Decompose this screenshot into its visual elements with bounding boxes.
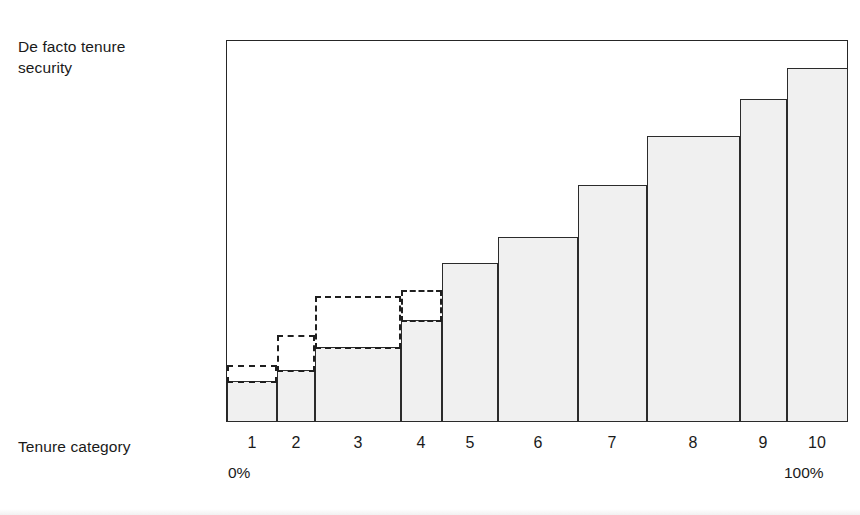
bar-dashed-extension-4 [401,290,442,322]
x-tick-label-2: 2 [292,432,301,454]
scale-start-label: 0% [228,462,250,483]
x-tick-label-10: 10 [808,432,826,454]
bar-category-7 [578,185,647,422]
x-tick-label-4: 4 [417,432,426,454]
bar-category-3 [315,347,401,422]
x-tick-label-8: 8 [689,432,698,454]
bar-category-8 [647,136,740,422]
bar-category-1 [227,381,277,422]
bar-dashed-extension-2 [277,335,315,372]
y-axis-label: De facto tenure security [18,36,218,78]
x-tick-label-3: 3 [354,432,363,454]
bar-category-2 [277,370,315,422]
bar-category-5 [442,263,498,422]
bar-dashed-extension-3 [315,296,401,349]
x-tick-label-5: 5 [466,432,475,454]
bar-dashed-extension-1 [227,365,277,383]
bar-category-10 [787,68,848,422]
bar-category-4 [401,320,442,422]
x-tick-label-9: 9 [759,432,768,454]
scale-end-label: 100% [784,462,824,483]
x-axis-tick-row: 12345678910 [0,432,860,460]
bar-category-6 [498,237,578,422]
x-tick-label-6: 6 [534,432,543,454]
bar-series-layer [226,40,848,422]
chart-plot-area [226,40,848,422]
scan-edge-artifact [0,509,860,515]
x-tick-label-7: 7 [608,432,617,454]
x-tick-label-1: 1 [248,432,257,454]
bar-category-9 [740,99,787,422]
